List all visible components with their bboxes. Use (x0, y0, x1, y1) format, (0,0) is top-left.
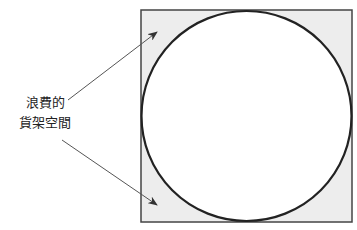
wasted-space-label: 浪費的 貨架空間 (10, 93, 80, 133)
label-line-1: 浪費的 (10, 93, 80, 113)
label-line-2: 貨架空間 (10, 113, 80, 133)
product-circle (142, 11, 352, 221)
diagram: 浪費的 貨架空間 (0, 0, 357, 230)
